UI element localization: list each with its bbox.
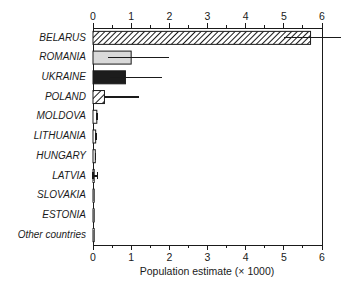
- x-axis-tick-label: 3: [205, 251, 211, 263]
- x-axis-tick-label: 1: [128, 10, 134, 22]
- category-label: LITHUANIA: [34, 130, 87, 141]
- chart-svg: 0123456 0123456 BELARUSROMANIAUKRAINEPOL…: [0, 0, 343, 285]
- category-label: ROMANIA: [39, 51, 86, 62]
- category-axis-labels: BELARUSROMANIAUKRAINEPOLANDMOLDOVALITHUA…: [18, 32, 88, 240]
- category-label: HUNGARY: [36, 150, 87, 161]
- x-axis-tick-label: 0: [90, 251, 96, 263]
- x-axis-tick-label: 3: [205, 10, 211, 22]
- x-axis-tick-label: 5: [281, 251, 287, 263]
- category-label: Other countries: [18, 229, 86, 240]
- category-label: ESTONIA: [42, 209, 86, 220]
- bar: [93, 229, 94, 242]
- category-label: POLAND: [45, 91, 86, 102]
- x-axis-tick-label: 2: [166, 251, 172, 263]
- category-label: SLOVAKIA: [37, 189, 86, 200]
- x-axis-tick-label: 4: [243, 10, 249, 22]
- category-label: LATVIA: [52, 170, 86, 181]
- population-estimate-bar-chart: 0123456 0123456 BELARUSROMANIAUKRAINEPOL…: [0, 0, 343, 285]
- bar: [93, 31, 311, 44]
- category-label: BELARUS: [39, 32, 86, 43]
- category-label: MOLDOVA: [37, 110, 87, 121]
- x-axis-title: Population estimate (× 1000): [140, 265, 275, 277]
- x-axis-tick-label: 6: [319, 251, 325, 263]
- bar: [93, 189, 94, 202]
- x-axis-tick-label: 2: [166, 10, 172, 22]
- x-axis-tick-label: 0: [90, 10, 96, 22]
- category-label: UKRAINE: [42, 71, 87, 82]
- x-axis-tick-label: 4: [243, 251, 249, 263]
- bottom-x-axis: 0123456: [90, 245, 325, 263]
- bar: [93, 91, 104, 104]
- top-x-axis: 0123456: [90, 10, 325, 28]
- bars-layer: [93, 31, 311, 241]
- x-axis-tick-label: 6: [319, 10, 325, 22]
- x-axis-tick-label: 1: [128, 251, 134, 263]
- x-axis-tick-label: 5: [281, 10, 287, 22]
- bar: [93, 209, 94, 222]
